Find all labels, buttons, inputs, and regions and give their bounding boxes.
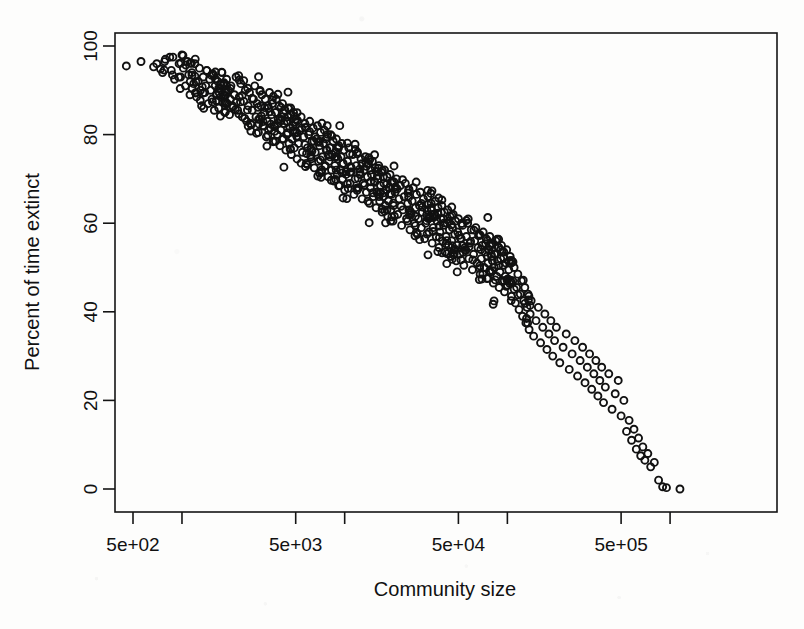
data-point bbox=[556, 359, 563, 366]
data-point bbox=[454, 268, 461, 275]
data-point bbox=[598, 364, 605, 371]
data-point bbox=[609, 406, 616, 413]
data-point bbox=[543, 346, 550, 353]
data-point bbox=[560, 344, 567, 351]
data-point bbox=[549, 353, 556, 360]
data-point bbox=[425, 251, 432, 258]
y-tick-label: 20 bbox=[80, 390, 101, 411]
data-point bbox=[592, 357, 599, 364]
y-axis-tick-labels: 020406080100 bbox=[80, 30, 101, 494]
y-axis-title: Percent of time extinct bbox=[21, 173, 43, 371]
x-tick-label: 5e+03 bbox=[269, 534, 322, 555]
data-point-layer bbox=[123, 51, 684, 492]
data-point bbox=[620, 397, 627, 404]
data-point bbox=[541, 311, 548, 318]
data-point bbox=[626, 417, 633, 424]
data-point bbox=[588, 386, 595, 393]
x-tick-label: 5e+04 bbox=[432, 534, 486, 555]
data-point bbox=[553, 324, 560, 331]
data-point bbox=[582, 379, 589, 386]
data-point bbox=[123, 62, 130, 69]
data-point bbox=[594, 392, 601, 399]
data-point bbox=[577, 357, 584, 364]
data-point bbox=[535, 304, 542, 311]
data-point bbox=[537, 339, 544, 346]
y-tick-label: 40 bbox=[80, 301, 101, 322]
data-point bbox=[655, 477, 662, 484]
data-point bbox=[285, 89, 292, 96]
scatter-plot-figure: 5e+025e+035e+045e+05 020406080100 Commun… bbox=[0, 0, 804, 629]
data-point bbox=[618, 412, 625, 419]
data-point bbox=[628, 437, 635, 444]
x-tick-label: 5e+02 bbox=[106, 534, 159, 555]
y-tick-label: 100 bbox=[80, 30, 101, 62]
y-tick-label: 60 bbox=[80, 213, 101, 234]
data-point bbox=[566, 366, 573, 373]
x-axis-tick-labels: 5e+025e+035e+045e+05 bbox=[106, 534, 647, 555]
data-point bbox=[615, 377, 622, 384]
x-axis-ticks bbox=[133, 512, 670, 524]
data-point bbox=[138, 58, 145, 65]
data-point bbox=[612, 390, 619, 397]
data-point bbox=[443, 260, 450, 267]
data-point bbox=[623, 428, 630, 435]
data-point bbox=[639, 443, 646, 450]
data-point bbox=[484, 214, 491, 221]
x-axis-title: Community size bbox=[374, 578, 516, 600]
data-point bbox=[530, 333, 537, 340]
data-point bbox=[630, 426, 637, 433]
plot-canvas: 5e+025e+035e+045e+05 020406080100 Commun… bbox=[0, 0, 804, 629]
x-tick-label: 5e+05 bbox=[594, 534, 647, 555]
data-point bbox=[533, 317, 540, 324]
data-point bbox=[429, 240, 436, 247]
data-point bbox=[366, 219, 373, 226]
data-point bbox=[196, 65, 203, 72]
data-point bbox=[574, 373, 581, 380]
data-point bbox=[579, 344, 586, 351]
data-point bbox=[569, 350, 576, 357]
data-point bbox=[605, 370, 612, 377]
y-tick-label: 0 bbox=[80, 484, 101, 495]
data-point bbox=[551, 337, 558, 344]
data-point bbox=[563, 330, 570, 337]
data-point bbox=[635, 435, 642, 442]
data-point bbox=[336, 122, 343, 129]
data-point bbox=[586, 350, 593, 357]
data-point bbox=[280, 164, 287, 171]
data-point bbox=[571, 337, 578, 344]
data-point bbox=[469, 266, 476, 273]
data-point bbox=[644, 450, 651, 457]
data-point bbox=[676, 486, 683, 493]
data-point bbox=[584, 364, 591, 371]
data-point bbox=[539, 324, 546, 331]
data-point bbox=[596, 377, 603, 384]
data-point bbox=[602, 384, 609, 391]
data-point bbox=[600, 399, 607, 406]
data-point bbox=[391, 162, 398, 169]
data-point bbox=[545, 330, 552, 337]
y-axis-ticks bbox=[103, 46, 115, 489]
data-point bbox=[255, 73, 262, 80]
data-point bbox=[547, 317, 554, 324]
data-point bbox=[590, 370, 597, 377]
y-tick-label: 80 bbox=[80, 124, 101, 145]
